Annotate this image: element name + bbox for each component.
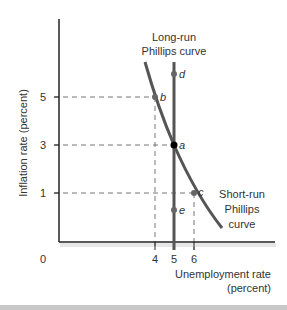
point-d-marker	[171, 71, 177, 77]
point-a-label: a	[179, 139, 185, 151]
srpc-label-line2: Phillips	[225, 203, 260, 215]
point-a-marker	[171, 142, 178, 149]
point-e-label: e	[179, 204, 185, 216]
x-axis-label-line2: (percent)	[227, 282, 271, 294]
axis-shadow	[60, 243, 276, 247]
srpc-label-line1: Short-run	[219, 188, 265, 200]
x-tick-4: 4	[152, 253, 158, 265]
point-c-label: c	[198, 186, 204, 198]
point-b-label: b	[160, 91, 166, 103]
point-e-marker	[171, 207, 177, 213]
y-tick-3: 3	[40, 139, 46, 151]
phillips-curve-chart: b a c d e Long-run Phillips curve Short-…	[0, 0, 287, 310]
footer-bar	[0, 305, 287, 310]
point-d-label: d	[179, 68, 186, 80]
lrpc-label-line2: Phillips curve	[142, 45, 207, 57]
lrpc-label-line1: Long-run	[152, 31, 196, 43]
x-tick-5: 5	[171, 253, 177, 265]
x-axis-label-line1: Unemployment rate	[175, 268, 271, 280]
y-tick-1: 1	[40, 187, 46, 199]
y-tick-5: 5	[40, 91, 46, 103]
point-c-marker	[191, 190, 197, 196]
y-axis-label: Inflation rate (percent)	[17, 89, 29, 197]
origin-label: 0	[40, 253, 46, 265]
x-tick-6: 6	[191, 253, 197, 265]
srpc-label-line3: curve	[229, 218, 256, 230]
point-b-marker	[152, 94, 158, 100]
